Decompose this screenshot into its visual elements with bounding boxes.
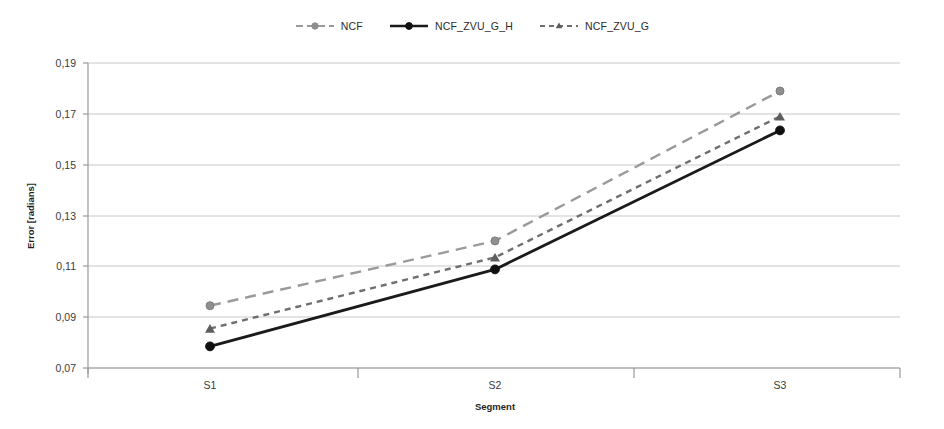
y-axis-title: Error [radians] — [25, 183, 36, 249]
y-tick-label: 0,13 — [56, 210, 77, 222]
x-axis — [88, 368, 900, 378]
y-tick-label: 0,11 — [56, 260, 76, 272]
data-point — [776, 126, 785, 135]
chart-canvas: 0,19 0,17 0,15 0,13 0,11 0,09 0,07 S1 S2… — [0, 0, 944, 429]
y-tick-labels: 0,19 0,17 0,15 0,13 0,11 0,09 0,07 — [56, 57, 77, 374]
x-tick-label: S1 — [204, 379, 217, 391]
y-axis — [83, 63, 88, 374]
data-point — [491, 237, 499, 245]
y-tick-label: 0,09 — [56, 311, 77, 323]
plot-area: 0,19 0,17 0,15 0,13 0,11 0,09 0,07 S1 S2… — [0, 0, 944, 429]
data-point — [776, 87, 784, 95]
data-point — [491, 265, 500, 274]
series-line-ncf-zvu-g — [210, 116, 780, 328]
chart-figure: NCF NCF_ZVU_G_H NCF_ZVU_G — [0, 0, 944, 429]
gridlines — [88, 63, 900, 368]
series-ncf-zvu-g — [205, 112, 785, 333]
y-tick-label: 0,17 — [56, 108, 77, 120]
y-tick-label: 0,07 — [56, 362, 77, 374]
x-tick-label: S2 — [489, 379, 502, 391]
data-point — [206, 342, 215, 351]
y-tick-label: 0,15 — [56, 159, 77, 171]
y-tick-label: 0,19 — [56, 57, 77, 69]
x-tick-label: S3 — [774, 379, 787, 391]
data-point — [206, 302, 214, 310]
x-tick-labels: S1 S2 S3 — [204, 379, 787, 391]
series-ncf — [206, 87, 784, 310]
data-point — [775, 112, 785, 121]
x-axis-title: Segment — [475, 401, 516, 412]
